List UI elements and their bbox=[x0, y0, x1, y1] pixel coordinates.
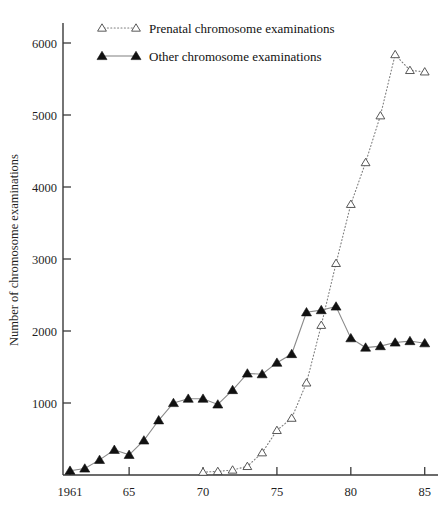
data-point-marker bbox=[331, 302, 341, 310]
data-point-marker bbox=[272, 358, 282, 366]
legend-marker bbox=[132, 24, 141, 31]
data-point-marker bbox=[228, 466, 237, 473]
x-tick-label: 85 bbox=[418, 485, 431, 499]
data-point-marker bbox=[287, 414, 296, 421]
data-point-marker bbox=[243, 462, 252, 469]
series-prenatal bbox=[199, 50, 430, 475]
chart-figure: 100020003000400050006000 19616570758085 … bbox=[0, 0, 440, 516]
y-tick-label: 3000 bbox=[32, 253, 57, 267]
x-axis-ticks: 19616570758085 bbox=[58, 467, 431, 499]
chromosome-examinations-line-chart: 100020003000400050006000 19616570758085 … bbox=[0, 0, 440, 516]
data-point-marker bbox=[80, 464, 90, 472]
series-other bbox=[65, 302, 430, 475]
data-point-marker bbox=[198, 394, 208, 402]
y-tick-label: 5000 bbox=[32, 109, 57, 123]
data-point-marker bbox=[302, 379, 311, 386]
data-point-marker bbox=[139, 436, 149, 444]
y-axis-label: Number of chromosome examinations bbox=[7, 154, 21, 346]
legend-label: Prenatal chromosome examinations bbox=[149, 21, 335, 36]
data-point-marker bbox=[317, 321, 326, 328]
data-point-marker bbox=[346, 333, 356, 341]
y-axis-label-text: Number of chromosome examinations bbox=[7, 154, 21, 346]
data-point-marker bbox=[109, 445, 119, 453]
y-axis-ticks: 100020003000400050006000 bbox=[32, 37, 71, 411]
legend-marker bbox=[131, 51, 141, 59]
y-tick-label: 2000 bbox=[32, 325, 57, 339]
x-tick-label: 65 bbox=[123, 485, 136, 499]
data-point-marker bbox=[242, 369, 252, 377]
y-tick-label: 6000 bbox=[32, 37, 57, 51]
data-point-marker bbox=[391, 50, 400, 57]
chart-axes bbox=[63, 23, 438, 475]
series-line bbox=[203, 55, 425, 473]
x-tick-label: 75 bbox=[271, 485, 284, 499]
data-point-marker bbox=[287, 349, 297, 357]
chart-series bbox=[65, 50, 430, 475]
data-point-marker bbox=[376, 112, 385, 119]
legend-item: Other chromosome examinations bbox=[97, 49, 322, 64]
x-tick-label: 1961 bbox=[58, 485, 83, 499]
data-point-marker bbox=[95, 455, 105, 463]
legend-label: Other chromosome examinations bbox=[149, 49, 322, 64]
data-point-marker bbox=[332, 259, 341, 266]
x-tick-label: 80 bbox=[345, 485, 358, 499]
data-point-marker bbox=[405, 336, 415, 344]
data-point-marker bbox=[183, 394, 193, 402]
data-point-marker bbox=[258, 449, 267, 456]
y-tick-label: 1000 bbox=[32, 397, 57, 411]
series-line bbox=[70, 307, 425, 471]
data-point-marker bbox=[420, 68, 429, 75]
chart-legend: Prenatal chromosome examinationsOther ch… bbox=[97, 21, 335, 64]
legend-item: Prenatal chromosome examinations bbox=[98, 21, 335, 36]
x-tick-label: 70 bbox=[197, 485, 210, 499]
data-point-marker bbox=[346, 200, 355, 207]
data-point-marker bbox=[361, 158, 370, 165]
y-tick-label: 4000 bbox=[32, 181, 57, 195]
legend-marker bbox=[97, 51, 107, 59]
